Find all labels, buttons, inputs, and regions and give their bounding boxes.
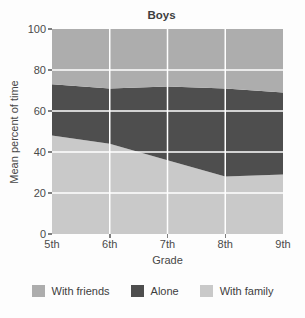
legend-label: Alone [151, 285, 179, 297]
y-tick-mark-0 [48, 233, 52, 235]
x-tick-mark-7th [167, 234, 169, 238]
y-tick-mark-40 [48, 151, 52, 153]
legend: With friendsAloneWith family [0, 285, 305, 297]
y-tick-label-100: 100 [16, 23, 46, 36]
y-tick-label-80: 80 [16, 64, 46, 77]
y-tick-mark-80 [48, 69, 52, 71]
x-tick-label-7th: 7th [160, 238, 175, 250]
y-tick-label-20: 20 [16, 187, 46, 200]
legend-item-with-friends: With friends [32, 285, 110, 297]
legend-item-alone: Alone [131, 285, 179, 297]
y-tick-label-0: 0 [16, 228, 46, 241]
x-tick-label-9th: 9th [275, 238, 290, 250]
y-tick-mark-20 [48, 192, 52, 194]
x-tick-label-8th: 8th [218, 238, 233, 250]
stacked-area-svg [52, 29, 283, 234]
chart-title: Boys [46, 9, 277, 21]
y-tick-label-40: 40 [16, 146, 46, 159]
y-axis-label: Mean percent of time [8, 80, 20, 183]
legend-label: With family [220, 285, 274, 297]
legend-item-with-family: With family [200, 285, 274, 297]
legend-swatch-icon [200, 285, 213, 297]
chart-figure: Boys Mean percent of time 020406080100 5… [0, 0, 305, 318]
x-tick-label-6th: 6th [102, 238, 117, 250]
y-tick-mark-100 [48, 28, 52, 30]
x-axis-label: Grade [52, 254, 283, 266]
plot-area [52, 29, 283, 234]
x-tick-label-5th: 5th [44, 238, 59, 250]
x-tick-mark-8th [225, 234, 227, 238]
x-tick-mark-6th [109, 234, 111, 238]
legend-swatch-icon [32, 285, 45, 297]
legend-label: With friends [52, 285, 110, 297]
y-tick-label-60: 60 [16, 105, 46, 118]
legend-swatch-icon [131, 285, 144, 297]
y-tick-mark-60 [48, 110, 52, 112]
